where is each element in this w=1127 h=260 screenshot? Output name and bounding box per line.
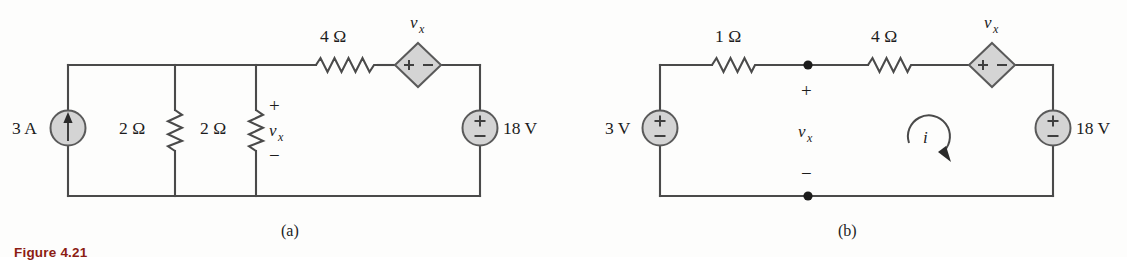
vx-subscript-b: x — [806, 131, 813, 145]
vx-subscript-a: x — [277, 130, 284, 144]
voltage-source-b-3v-label: 3 V — [605, 118, 631, 138]
resistor-b-1ohm-zigzag — [712, 58, 758, 72]
voltage-source-b-3v — [643, 111, 678, 146]
vx-label-a: v — [269, 121, 277, 140]
dependent-source-b-diamond — [969, 43, 1015, 87]
vx-plus-sign-b: + — [801, 80, 812, 101]
resistor-a-top-label: 4 Ω — [320, 26, 346, 46]
dependent-source-b — [969, 43, 1015, 87]
resistor-a-middle-zigzag — [249, 110, 263, 151]
voltage-source-b-18v — [1036, 111, 1071, 146]
figure-caption: Figure 4.21 — [14, 245, 87, 260]
node-dot-bottom-b — [803, 191, 812, 200]
dependent-source-a-diamond — [395, 43, 441, 87]
mesh-current-arc — [908, 115, 950, 151]
subfigure-label-a: (a) — [281, 222, 299, 240]
vx-minus-sign-b: − — [801, 163, 812, 184]
resistor-a-left-zigzag — [168, 110, 182, 151]
voltage-source-a-18v — [463, 111, 498, 146]
vx-label-b: v — [798, 122, 806, 141]
resistor-a-middle-label: 2 Ω — [200, 118, 226, 138]
dependent-source-a — [395, 43, 441, 87]
mesh-current-arrowhead — [938, 146, 951, 162]
resistor-b-1ohm-label: 1 Ω — [715, 26, 741, 46]
resistor-a-middle — [249, 110, 263, 151]
dependent-source-a-subscript: x — [418, 22, 425, 36]
resistor-b-4ohm-label: 4 Ω — [871, 26, 897, 46]
dependent-source-b-label: v — [984, 13, 992, 32]
voltage-source-b-18v-label: 18 V — [1076, 118, 1111, 138]
mesh-current-loop-b — [908, 115, 951, 162]
resistor-b-4ohm-zigzag — [868, 58, 914, 72]
resistor-a-top-zigzag — [316, 58, 378, 72]
node-dot-top-b — [803, 60, 812, 69]
voltage-source-a-label: 18 V — [503, 118, 538, 138]
resistor-b-1ohm — [712, 58, 758, 72]
resistor-a-top — [316, 58, 378, 72]
subfigure-label-b: (b) — [838, 222, 857, 240]
resistor-b-4ohm — [868, 58, 914, 72]
dependent-source-b-subscript: x — [992, 22, 999, 36]
circuit-b-group: 3 V 1 Ω + v x − 4 Ω — [605, 13, 1111, 240]
mesh-current-label: i — [923, 128, 928, 147]
vx-minus-sign-a: − — [269, 145, 280, 166]
current-source-3a — [51, 111, 86, 146]
current-source-3a-label: 3 A — [12, 118, 37, 138]
dependent-source-a-label: v — [410, 13, 418, 32]
resistor-a-left-label: 2 Ω — [119, 118, 145, 138]
vx-plus-sign-a: + — [269, 95, 280, 116]
resistor-a-left — [168, 110, 182, 151]
circuit-a-group: 3 A 2 Ω 2 Ω + v x − 4 Ω — [12, 13, 538, 240]
